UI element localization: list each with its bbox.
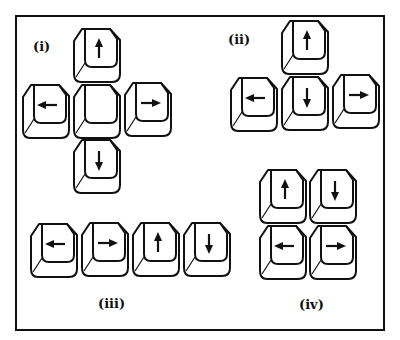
keycap-up-arrow-icon: [258, 168, 308, 225]
keycap-left-arrow-icon: [21, 83, 71, 140]
keycap-up-arrow-icon: [72, 27, 122, 84]
group-label-ii: (ii): [228, 32, 250, 47]
group-label-i: (i): [33, 39, 50, 54]
keycap-down-arrow-icon: [72, 138, 122, 195]
keycap-right-arrow-icon: [123, 81, 173, 138]
keycap-down-arrow-icon: [280, 75, 330, 132]
keycap-up-arrow-icon: [131, 221, 181, 278]
group-label-iv: (iv): [299, 297, 324, 312]
group-label-iii: (iii): [98, 296, 125, 311]
keycap-down-arrow-icon: [182, 221, 232, 278]
keycap-left-arrow-icon: [258, 224, 308, 281]
keycap-right-arrow-icon: [80, 221, 130, 278]
keycap-down-arrow-icon: [308, 168, 358, 225]
keycap-right-arrow-icon: [331, 73, 381, 130]
keycap-left-arrow-icon: [29, 222, 79, 279]
keycap-up-arrow-icon: [280, 19, 330, 76]
keycap-right-arrow-icon: [308, 224, 358, 281]
keycap-left-arrow-icon: [229, 76, 279, 133]
keycap-blank: [72, 83, 122, 140]
